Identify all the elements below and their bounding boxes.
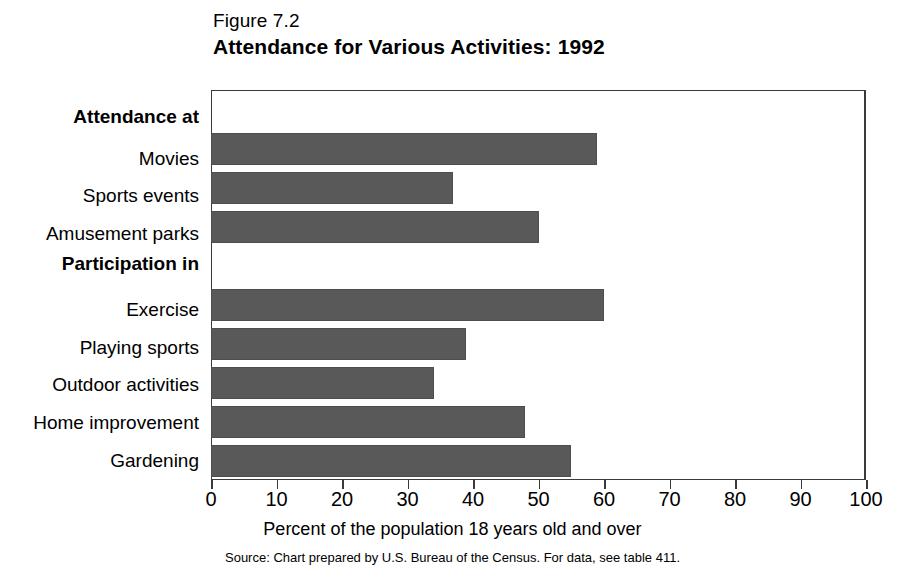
x-axis-tick-label: 0 <box>205 488 216 511</box>
x-axis-caption: Percent of the population 18 years old a… <box>0 519 905 540</box>
y-axis-label: Movies <box>0 140 205 178</box>
bar <box>211 172 453 204</box>
y-axis-labels: Attendance atMoviesSports eventsAmusemen… <box>0 90 205 480</box>
bar-row <box>211 168 866 207</box>
bar-row <box>211 129 866 168</box>
y-axis-label: Playing sports <box>0 329 205 367</box>
bar-row <box>211 441 866 480</box>
x-axis-tick-label: 80 <box>724 488 746 511</box>
y-axis-label: Gardening <box>0 442 205 480</box>
bar-row-spacer <box>211 246 866 285</box>
bar-row <box>211 402 866 441</box>
x-axis-tick-label: 100 <box>849 488 882 511</box>
figure-number: Figure 7.2 <box>213 8 605 33</box>
y-axis-group-header: Attendance at <box>0 90 205 140</box>
y-axis-label: Sports events <box>0 178 205 216</box>
y-axis-label: Exercise <box>0 291 205 329</box>
bar <box>211 133 597 165</box>
bar-row <box>211 285 866 324</box>
x-axis-tick-label: 90 <box>789 488 811 511</box>
x-axis-tick-label: 60 <box>593 488 615 511</box>
bar <box>211 328 466 360</box>
bar <box>211 211 539 243</box>
bar <box>211 445 571 477</box>
x-axis-tick-labels: 0102030405060708090100 <box>211 488 866 514</box>
bars-container <box>211 90 866 480</box>
bar <box>211 367 434 399</box>
figure-container: Figure 7.2 Attendance for Various Activi… <box>0 0 905 586</box>
x-axis-tick-label: 50 <box>527 488 549 511</box>
x-axis-tick-label: 20 <box>331 488 353 511</box>
bar <box>211 289 604 321</box>
x-axis-tick-label: 70 <box>658 488 680 511</box>
bar-row <box>211 363 866 402</box>
bar-row <box>211 207 866 246</box>
y-axis-label: Amusement parks <box>0 215 205 253</box>
y-axis-group-header: Participation in <box>0 253 205 291</box>
x-axis-tick-label: 30 <box>396 488 418 511</box>
bar <box>211 406 525 438</box>
figure-title: Attendance for Various Activities: 1992 <box>213 33 605 60</box>
x-axis-tick-label: 40 <box>462 488 484 511</box>
y-axis-label: Outdoor activities <box>0 367 205 405</box>
source-note: Source: Chart prepared by U.S. Bureau of… <box>0 550 905 565</box>
title-block: Figure 7.2 Attendance for Various Activi… <box>213 8 605 60</box>
bar-row-spacer <box>211 90 866 129</box>
y-axis-label: Home improvement <box>0 404 205 442</box>
x-axis-tick-label: 10 <box>265 488 287 511</box>
bar-row <box>211 324 866 363</box>
